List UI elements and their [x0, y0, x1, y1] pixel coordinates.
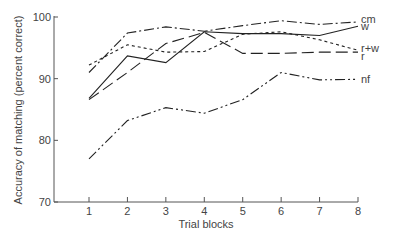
series-label: r [361, 50, 365, 62]
x-tick-label: 7 [317, 205, 323, 217]
y-axis-title: Accuracy of matching (percent correct) [12, 16, 24, 205]
series-line-r [89, 32, 358, 99]
y-tick-label: 100 [33, 11, 51, 23]
y-tick-label: 80 [39, 134, 51, 146]
x-tick-label: 3 [163, 205, 169, 217]
series-line-cm [89, 21, 358, 73]
y-tick-label: 70 [39, 196, 51, 208]
y-axis: 708090100 [33, 11, 58, 208]
series-label: nf [361, 73, 371, 85]
x-tick-label: 1 [86, 205, 92, 217]
plot-area: cmwr+wrnf [89, 13, 379, 159]
series-label: w [360, 20, 369, 32]
x-tick-label: 5 [240, 205, 246, 217]
x-tick-label: 2 [124, 205, 130, 217]
series-line-w [89, 26, 358, 98]
x-tick-label: 6 [278, 205, 284, 217]
x-axis-title: Trial blocks [178, 218, 234, 230]
x-tick-label: 8 [355, 205, 361, 217]
series-line-r-plus-w [89, 32, 358, 65]
x-axis: 12345678 [54, 197, 361, 217]
x-tick-label: 4 [201, 205, 207, 217]
series-line-nf [89, 73, 358, 159]
y-tick-label: 90 [39, 73, 51, 85]
line-chart: 708090100 12345678 Accuracy of matching … [0, 0, 395, 243]
